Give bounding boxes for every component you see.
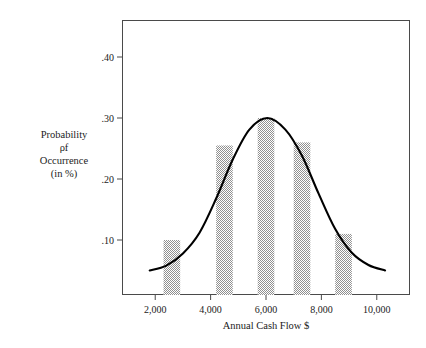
bar — [258, 118, 275, 295]
figure: Probability ρf Occurrence (in %) .10 .20… — [0, 0, 426, 348]
bar — [164, 240, 181, 295]
chart-vector-layer — [0, 0, 426, 348]
bar — [216, 145, 233, 295]
bar — [294, 142, 311, 295]
